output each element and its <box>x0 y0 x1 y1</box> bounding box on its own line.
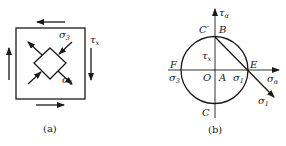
element-square <box>16 28 85 99</box>
point-c-prime: C′ <box>199 24 210 35</box>
label-tau-x-b: τx <box>202 50 212 63</box>
label-sigma1-axis: σ1 <box>233 72 244 85</box>
sigma3-arrow-sw <box>28 72 41 84</box>
label-sigma3: σ3 <box>59 29 70 42</box>
point-e: E <box>249 59 258 70</box>
sigma1-arrow-nw <box>28 42 42 55</box>
figure-a-stress-element: σ3 τx σ1 (a) <box>9 22 100 134</box>
figure-b-mohr-circle: τα σα C′ B F E O A C τx σ3 σ1 σ1 (b) <box>168 7 279 135</box>
point-f: F <box>169 59 178 70</box>
point-a: A <box>218 72 226 83</box>
label-tau-x: τx <box>90 34 100 47</box>
figure-canvas: σ3 τx σ1 (a) τα σα C′ B F E O A C τx σ3 … <box>0 0 286 146</box>
point-o: O <box>203 72 211 83</box>
label-tau-alpha: τα <box>219 7 230 20</box>
point-c: C <box>202 107 210 118</box>
sigma3-arrow-ne <box>59 42 72 54</box>
point-b: B <box>218 24 226 35</box>
caption-a: (a) <box>43 123 57 134</box>
label-sigma-alpha: σα <box>267 73 279 86</box>
label-sigma1-arrow: σ1 <box>258 95 269 108</box>
sigma1-direction-arrow <box>215 37 274 97</box>
label-sigma3-b: σ3 <box>169 72 180 85</box>
caption-b: (b) <box>208 124 222 135</box>
label-sigma1: σ1 <box>62 74 73 87</box>
